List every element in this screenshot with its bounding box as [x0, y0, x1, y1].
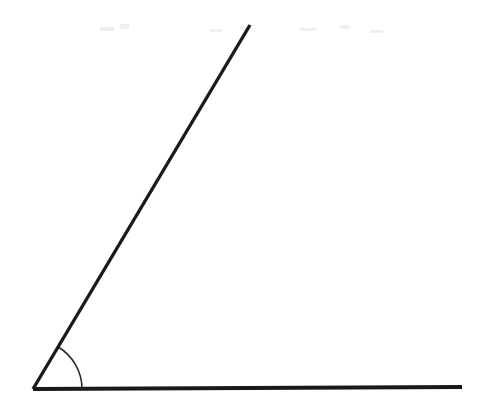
- scan-smudge: [300, 28, 316, 31]
- scan-smudge: [340, 25, 350, 29]
- scan-smudge: [210, 29, 222, 32]
- scan-smudge: [120, 24, 129, 29]
- scan-smudge: [100, 27, 114, 31]
- horizontal-ray: [33, 387, 462, 389]
- figure-background: [0, 0, 500, 399]
- angle-figure-canvas: [0, 0, 500, 399]
- angle-figure-svg: [0, 0, 500, 399]
- scan-smudge: [370, 30, 383, 33]
